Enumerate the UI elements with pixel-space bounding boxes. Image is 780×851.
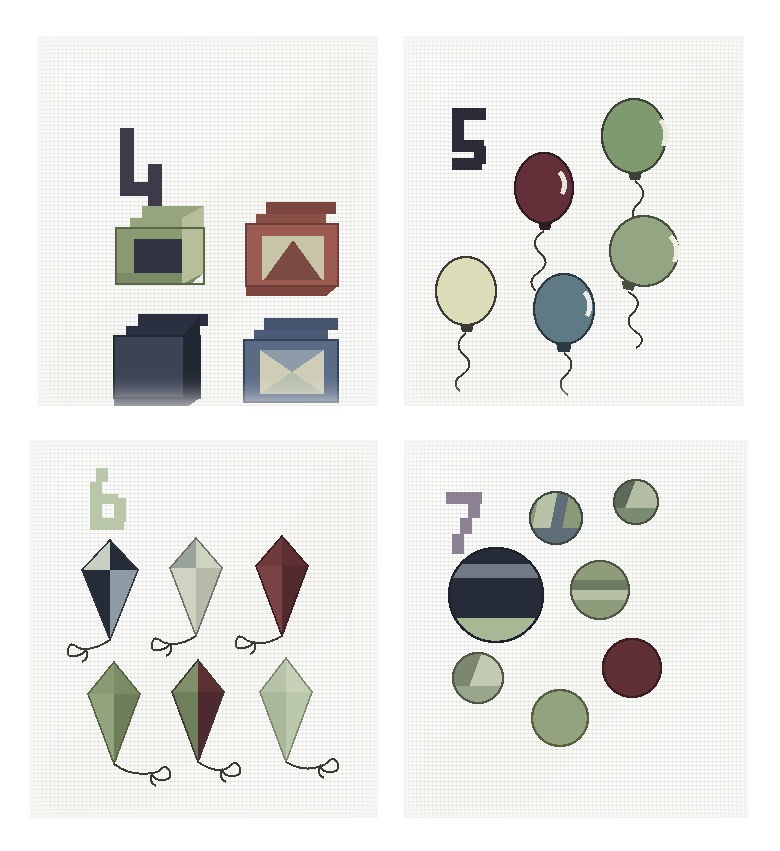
ball-dark-right [603,639,661,697]
ball-large-navy [444,545,554,646]
ball-mid-right [568,558,634,624]
sampler-photograph [0,0,780,851]
kite-2 [152,538,222,656]
kite-4 [88,662,170,786]
kite-6 [260,658,338,778]
panel-six-artwork [30,440,378,818]
numeral-7 [446,492,482,554]
numeral-4 [120,128,162,208]
panel-five-artwork [404,36,744,406]
kite-5 [172,660,240,782]
panel-six-kites [30,440,378,818]
balloon-sage-right [610,216,678,348]
numeral-5 [452,108,486,170]
numeral-6 [90,468,126,530]
ball-bottom-mid [532,690,588,746]
panel-seven-artwork [404,440,748,818]
panel-five-balloons [404,36,744,406]
kite-1 [68,518,138,662]
panel-seven-balls [404,440,748,818]
ball-small-left [450,650,508,708]
block-bottom-right [244,318,338,402]
block-top-left [116,206,204,284]
block-top-right [246,202,338,296]
balloon-dark-red [515,153,573,291]
balloon-teal-blue [534,274,594,395]
panel-four-artwork [38,36,378,406]
kite-3 [236,536,308,654]
panel-four-blocks [38,36,378,406]
ball-small-top-right [610,478,662,528]
ball-striped-top [528,490,588,552]
block-bottom-left [114,314,208,406]
balloon-pale-yellow [436,257,496,391]
